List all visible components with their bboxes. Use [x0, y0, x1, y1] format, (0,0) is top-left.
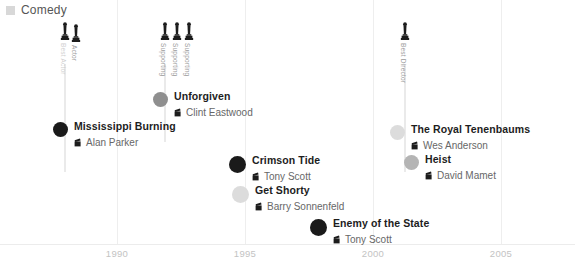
film-clapper-icon — [252, 172, 260, 181]
film-node-marker[interactable] — [53, 122, 68, 137]
film-director-name: Wes Anderson — [423, 140, 488, 151]
film-node-marker[interactable] — [404, 155, 419, 170]
film-clapper-icon — [174, 108, 182, 117]
gridline-2000 — [373, 0, 374, 244]
film-entry[interactable]: HeistDavid Mamet — [404, 155, 496, 184]
x-tick-2000: 2000 — [362, 248, 384, 259]
film-text-block: Crimson TideTony Scott — [252, 154, 320, 185]
film-director-row: Alan Parker — [74, 133, 176, 151]
film-director-row: Clint Eastwood — [174, 103, 253, 121]
film-clapper-icon — [333, 230, 341, 248]
award-label: Supporting — [172, 43, 179, 76]
oscar-statuette-icon — [173, 22, 182, 42]
film-clapper-icon — [425, 171, 433, 180]
award-stem-line — [65, 64, 66, 172]
film-title: Crimson Tide — [252, 154, 320, 166]
film-node-marker[interactable] — [310, 219, 327, 236]
film-node-marker[interactable] — [229, 156, 246, 173]
film-clapper-icon — [411, 141, 419, 150]
film-node-marker[interactable] — [232, 186, 249, 203]
film-clapper-icon — [174, 103, 182, 121]
film-director-row: Barry Sonnenfeld — [255, 197, 344, 215]
oscar-statuette-icon — [185, 22, 194, 42]
award-label: Supporting — [160, 43, 167, 76]
oscar-statuette-icon — [72, 24, 81, 44]
x-tick-2005: 2005 — [490, 248, 512, 259]
film-director-name: Alan Parker — [86, 137, 138, 148]
film-entry[interactable]: UnforgivenClint Eastwood — [153, 92, 253, 121]
film-title: Heist — [425, 153, 496, 165]
x-tick-1990: 1990 — [106, 248, 128, 259]
legend-swatch-comedy — [6, 6, 15, 15]
film-node-marker[interactable] — [153, 92, 168, 107]
film-clapper-icon — [252, 167, 260, 185]
film-clapper-icon — [333, 235, 341, 244]
film-title: Mississippi Burning — [74, 120, 176, 132]
film-director-name: Tony Scott — [345, 234, 392, 245]
oscar-statuette-icon — [61, 22, 70, 42]
film-director-name: Tony Scott — [264, 171, 311, 182]
award-label: Actor — [71, 45, 78, 61]
x-tick-1995: 1995 — [234, 248, 256, 259]
film-clapper-icon — [74, 138, 82, 147]
film-director-row: Tony Scott — [252, 167, 320, 185]
film-clapper-icon — [255, 197, 263, 215]
legend-label-comedy: Comedy — [21, 3, 67, 17]
film-clapper-icon — [74, 133, 82, 151]
film-text-block: UnforgivenClint Eastwood — [174, 90, 253, 121]
legend: Comedy — [6, 3, 67, 17]
film-title: Unforgiven — [174, 90, 253, 102]
film-entry[interactable]: Crimson TideTony Scott — [229, 156, 320, 185]
film-text-block: Mississippi BurningAlan Parker — [74, 120, 176, 151]
oscar-statuette-icon — [161, 22, 170, 42]
film-director-name: David Mamet — [437, 170, 496, 181]
film-text-block: The Royal TenenbaumsWes Anderson — [411, 123, 530, 154]
award-label: Best Director — [400, 43, 407, 83]
film-clapper-icon — [255, 202, 263, 211]
film-title: The Royal Tenenbaums — [411, 123, 530, 135]
film-director-row: David Mamet — [425, 166, 496, 184]
award-label: Best Actor — [60, 43, 67, 75]
film-title: Enemy of the State — [333, 217, 429, 229]
gridline-2005 — [501, 0, 502, 244]
film-clapper-icon — [425, 166, 433, 184]
film-clapper-icon — [411, 136, 419, 154]
film-node-marker[interactable] — [390, 125, 405, 140]
film-text-block: Enemy of the StateTony Scott — [333, 217, 429, 248]
timeline-chart: Comedy 1990199520002005 Best ActorActorS… — [0, 0, 575, 277]
film-director-name: Barry Sonnenfeld — [267, 201, 344, 212]
film-title: Get Shorty — [255, 184, 344, 196]
film-entry[interactable]: Get ShortyBarry Sonnenfeld — [232, 186, 344, 215]
film-director-row: Wes Anderson — [411, 136, 530, 154]
film-entry[interactable]: The Royal TenenbaumsWes Anderson — [390, 125, 530, 154]
award-label: Supporting — [184, 43, 191, 76]
film-director-name: Clint Eastwood — [186, 107, 253, 118]
film-text-block: Get ShortyBarry Sonnenfeld — [255, 184, 344, 215]
film-entry[interactable]: Enemy of the StateTony Scott — [310, 219, 429, 248]
oscar-statuette-icon — [401, 22, 410, 42]
film-entry[interactable]: Mississippi BurningAlan Parker — [53, 122, 176, 151]
film-text-block: HeistDavid Mamet — [425, 153, 496, 184]
x-axis-line — [0, 244, 575, 245]
film-director-row: Tony Scott — [333, 230, 429, 248]
